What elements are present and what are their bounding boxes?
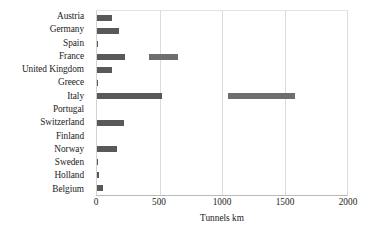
y-axis-label: Austria — [0, 10, 88, 23]
y-axis-label: Finland — [0, 130, 88, 143]
bar-row — [97, 77, 347, 90]
x-axis-tick: 500 — [152, 198, 166, 207]
bar — [97, 185, 103, 191]
bar-row — [97, 156, 347, 169]
bar — [149, 54, 178, 60]
y-axis-label: France — [0, 50, 88, 63]
bar — [97, 28, 119, 34]
bar-row — [97, 24, 347, 37]
x-axis-tick-labels: 0500100015002000 — [96, 198, 348, 212]
bar-row — [97, 103, 347, 116]
bar — [97, 41, 98, 47]
bar-row — [97, 129, 347, 142]
y-axis-label: Germany — [0, 23, 88, 36]
bar-row — [97, 116, 347, 129]
x-axis-tick: 0 — [94, 198, 99, 207]
bar-row — [97, 182, 347, 195]
bar — [97, 120, 124, 126]
y-axis-label: Switzerland — [0, 116, 88, 129]
x-axis-tick: 2000 — [339, 198, 358, 207]
tunnels-km-bar-chart: AustriaGermanySpainFranceUnited KingdomG… — [0, 0, 378, 233]
y-axis-label: Norway — [0, 143, 88, 156]
y-axis-label: Greece — [0, 76, 88, 89]
y-axis-label: United Kingdom — [0, 63, 88, 76]
bar-row — [97, 11, 347, 24]
gridline — [347, 11, 348, 195]
bar — [97, 80, 98, 86]
bar — [228, 93, 294, 99]
bar — [97, 146, 117, 152]
y-axis-label: Holland — [0, 169, 88, 182]
y-axis-label: Spain — [0, 37, 88, 50]
y-axis-label: Portugal — [0, 103, 88, 116]
bar-row — [97, 90, 347, 103]
bar-row — [97, 37, 347, 50]
y-axis-label: Sweden — [0, 156, 88, 169]
bar — [97, 15, 112, 21]
bar-row — [97, 64, 347, 77]
bar-row — [97, 142, 347, 155]
x-axis-tick: 1000 — [213, 198, 232, 207]
bar-row — [97, 50, 347, 63]
y-axis-label: Belgium — [0, 183, 88, 196]
bar — [97, 67, 112, 73]
bar-row — [97, 169, 347, 182]
bar — [97, 93, 162, 99]
plot-area — [96, 10, 348, 196]
bar-rows — [97, 11, 347, 195]
x-axis-title: Tunnels km — [96, 214, 348, 223]
bar — [97, 54, 125, 60]
y-axis-category-labels: AustriaGermanySpainFranceUnited KingdomG… — [0, 10, 88, 196]
x-axis-tick: 1500 — [276, 198, 295, 207]
y-axis-label: Italy — [0, 90, 88, 103]
bar — [97, 159, 98, 165]
bar — [97, 172, 99, 178]
